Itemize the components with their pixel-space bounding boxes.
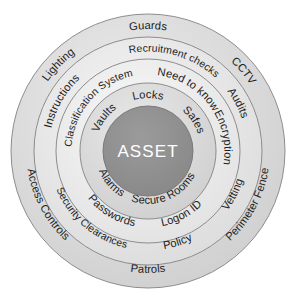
ring-label: Patrols	[130, 262, 166, 275]
diagram-canvas: GuardsCCTVPerimeter FencePatrolsAccess C…	[0, 0, 297, 303]
center-asset-node: ASSET	[103, 106, 193, 196]
ring-label: Guards	[128, 19, 168, 32]
asset-security-ring-diagram: GuardsCCTVPerimeter FencePatrolsAccess C…	[0, 0, 297, 303]
asset-core-label: ASSET	[117, 142, 178, 161]
ring-label: Locks	[131, 88, 165, 102]
